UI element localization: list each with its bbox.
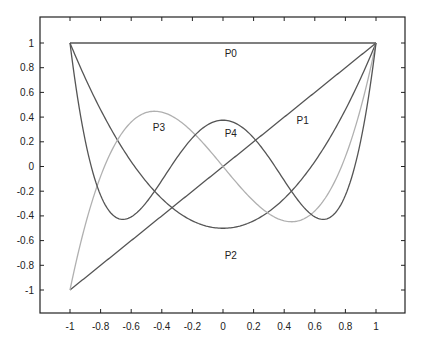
y-axis-tick-labels: 1 0.8 0.6 0.4 0.2 0 -0.2 -0.4 -0.6 -0.8 … xyxy=(17,38,35,296)
x-tick-label: -0.6 xyxy=(123,321,141,332)
curve-group xyxy=(70,43,376,290)
y-tick-label: -1 xyxy=(25,285,34,296)
y-tick-label: 0.6 xyxy=(20,87,34,98)
y-tick-label: 0.8 xyxy=(20,62,34,73)
y-tick-label: 0 xyxy=(28,161,34,172)
curve-label-p1: P1 xyxy=(297,115,310,126)
x-tick-label: 0.6 xyxy=(308,321,322,332)
curve-labels: P0 P1 P2 P3 P4 xyxy=(153,48,309,262)
x-axis-tick-labels: -1 -0.8 -0.6 -0.4 -0.2 0 0.2 0.4 0.6 0.8… xyxy=(66,321,380,332)
x-tick-label: -0.8 xyxy=(92,321,110,332)
y-tick-label: 0.2 xyxy=(20,136,34,147)
x-tick-label: -1 xyxy=(66,321,75,332)
x-tick-label: -0.4 xyxy=(153,321,171,332)
legendre-polynomial-chart: -1 -0.8 -0.6 -0.4 -0.2 0 0.2 0.4 0.6 0.8… xyxy=(0,0,425,348)
x-tick-label: 0.4 xyxy=(277,321,291,332)
curve-label-p0: P0 xyxy=(225,48,238,59)
curve-p2 xyxy=(70,43,376,228)
x-tick-label: -0.2 xyxy=(184,321,202,332)
x-tick-label: 0.2 xyxy=(247,321,261,332)
curve-label-p2: P2 xyxy=(225,250,238,261)
x-tick-label: 1 xyxy=(373,321,379,332)
x-tick-label: 0.8 xyxy=(338,321,352,332)
y-tick-label: -0.4 xyxy=(17,210,35,221)
y-tick-label: -0.8 xyxy=(17,260,35,271)
curve-label-p4: P4 xyxy=(225,128,238,139)
y-tick-label: 1 xyxy=(28,38,34,49)
y-tick-label: 0.4 xyxy=(20,112,34,123)
curve-label-p3: P3 xyxy=(153,122,166,133)
y-tick-label: -0.2 xyxy=(17,186,35,197)
x-tick-label: 0 xyxy=(220,321,226,332)
curve-p4 xyxy=(70,43,376,219)
y-tick-label: -0.6 xyxy=(17,235,35,246)
